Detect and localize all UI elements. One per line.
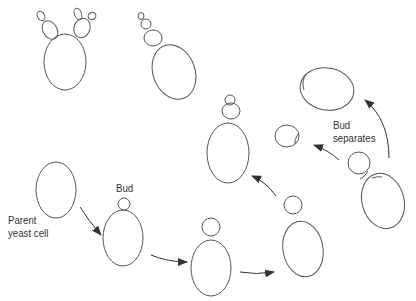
chain-bud-cell <box>138 13 203 106</box>
separates-label-line1: Bud <box>333 119 376 132</box>
budding-cell-1 <box>103 198 143 266</box>
parent-label: Parent yeast cell <box>8 214 48 240</box>
arrow-2 <box>151 255 187 262</box>
arrow-4 <box>252 176 276 196</box>
parent-label-line2: yeast cell <box>8 227 48 240</box>
arrow-3 <box>240 272 274 274</box>
budding-cell-4 <box>207 95 249 183</box>
separated-bud <box>275 125 299 147</box>
yeast-budding-diagram: Parent yeast cell Bud Bud separates <box>0 0 416 301</box>
parent-cell <box>36 162 76 218</box>
bud-separates-label: Bud separates <box>333 119 376 145</box>
separates-label-line2: separates <box>333 132 376 145</box>
diagram-canvas <box>0 0 416 301</box>
multi-bud-cell <box>35 7 97 90</box>
arrow-1 <box>80 207 101 235</box>
parent-label-line1: Parent <box>8 214 48 227</box>
budding-cell-3 <box>278 196 327 280</box>
bud-label: Bud <box>116 182 133 195</box>
separated-parent <box>297 64 357 115</box>
separating-pair <box>348 152 411 233</box>
budding-cell-2 <box>191 218 231 296</box>
arrow-5 <box>314 145 339 160</box>
